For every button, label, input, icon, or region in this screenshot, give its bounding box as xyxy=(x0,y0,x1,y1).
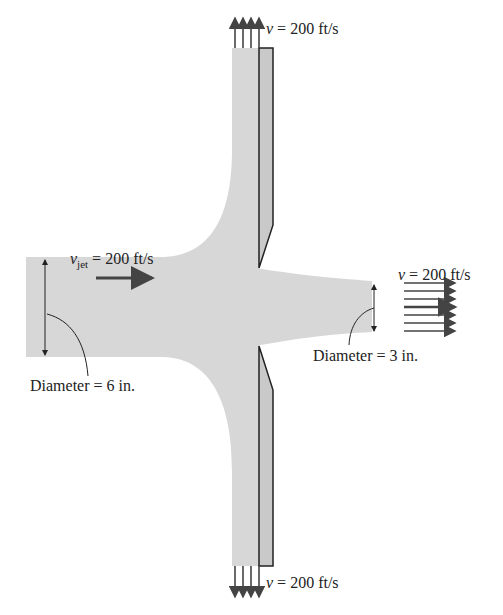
top-velocity-label: v = 200 ft/s xyxy=(266,21,339,37)
fluid-region xyxy=(26,48,259,566)
inlet-diameter-label: Diameter = 6 in. xyxy=(30,378,135,394)
top-velocity-arrows xyxy=(235,18,259,48)
lower-plate xyxy=(259,346,273,566)
jet-velocity-label: vjet = 200 ft/s xyxy=(70,251,154,270)
exit-diameter-label: Diameter = 3 in. xyxy=(313,348,418,364)
bottom-velocity-arrows xyxy=(235,566,259,597)
exit-jet xyxy=(255,268,372,346)
exit-velocity-arrows xyxy=(404,283,455,331)
bottom-velocity-label: v = 200 ft/s xyxy=(266,575,339,591)
jet-plate-diagram xyxy=(0,0,503,615)
exit-velocity-label: v = 200 ft/s xyxy=(398,267,471,283)
upper-plate xyxy=(259,48,273,268)
